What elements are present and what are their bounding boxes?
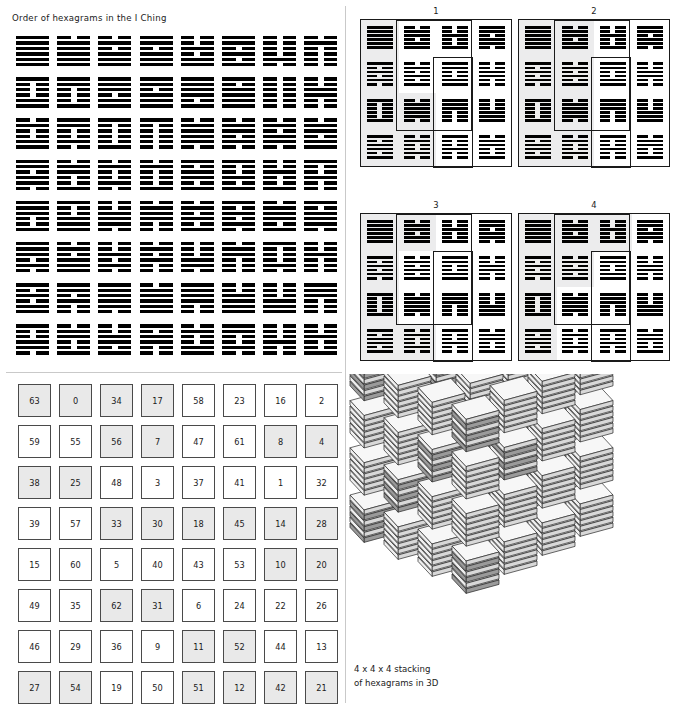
line-segment	[200, 269, 214, 272]
hexagram-number-cell[interactable]: 63	[18, 384, 51, 417]
yang-line	[479, 30, 505, 33]
hexagram-number-cell[interactable]: 13	[305, 630, 338, 663]
hexagram-number-cell[interactable]: 24	[223, 589, 256, 622]
hexagram-number-cell[interactable]: 2	[305, 384, 338, 417]
yang-line	[263, 206, 296, 209]
hexagram-number-cell[interactable]: 29	[59, 630, 92, 663]
hexagram-number-cell[interactable]: 55	[59, 425, 92, 458]
hexagram-number-cell[interactable]: 37	[182, 466, 215, 499]
line-segment	[263, 294, 277, 297]
yin-line	[98, 170, 131, 173]
line-segment	[98, 52, 131, 55]
line-segment	[263, 289, 277, 292]
line-segment	[637, 156, 663, 159]
hexagram-number-cell[interactable]: 1	[264, 466, 297, 499]
hexagram-number-cell[interactable]: 16	[264, 384, 297, 417]
hexagram-number-cell[interactable]: 20	[305, 548, 338, 581]
yin-line	[98, 135, 131, 138]
hexagram-number-cell[interactable]: 47	[182, 425, 215, 458]
hexagram-number-cell[interactable]: 21	[305, 671, 338, 704]
yang-line	[600, 293, 626, 296]
hexagram-number-cell[interactable]: 54	[59, 671, 92, 704]
hexagram-number-cell[interactable]: 19	[100, 671, 133, 704]
hexagram-number-cell[interactable]: 26	[305, 589, 338, 622]
quadrant-4: 4	[518, 200, 670, 361]
hexagram-number-cell[interactable]: 53	[223, 548, 256, 581]
hexagram-number-cell[interactable]: 62	[100, 589, 133, 622]
hexagram-number-cell[interactable]: 9	[141, 630, 174, 663]
hexagram-number-cell[interactable]: 57	[59, 507, 92, 540]
hexagram-number-cell[interactable]: 45	[223, 507, 256, 540]
hexagram-number-cell[interactable]: 30	[141, 507, 174, 540]
yin-line	[442, 30, 468, 33]
yang-line	[140, 299, 173, 302]
line-segment	[98, 135, 112, 138]
hexagram-number-cell[interactable]: 18	[182, 507, 215, 540]
line-segment	[442, 67, 468, 70]
hexagram-number-cell[interactable]: 48	[100, 466, 133, 499]
hexagram-number-cell[interactable]: 10	[264, 548, 297, 581]
yin-line	[442, 220, 468, 223]
hexagram-number-cell[interactable]: 22	[264, 589, 297, 622]
line-segment	[367, 67, 377, 70]
hexagram-number-cell[interactable]: 31	[141, 589, 174, 622]
line-segment	[36, 335, 50, 338]
yang-line	[479, 71, 505, 74]
hexagram-number-cell[interactable]: 42	[264, 671, 297, 704]
hexagram-number-cell[interactable]: 27	[18, 671, 51, 704]
hexagram-number-cell[interactable]: 6	[182, 589, 215, 622]
hexagram-number-cell[interactable]: 41	[223, 466, 256, 499]
hexagram-number-cell[interactable]: 3	[141, 466, 174, 499]
yin-line	[16, 129, 49, 132]
hexagram-number-cell[interactable]: 46	[18, 630, 51, 663]
hexagram-number-cell[interactable]: 61	[223, 425, 256, 458]
hexagram-number-cell[interactable]: 7	[141, 425, 174, 458]
hexagram-number-cell[interactable]: 49	[18, 589, 51, 622]
hexagram-number-cell[interactable]: 23	[223, 384, 256, 417]
hexagram-number-cell[interactable]: 4	[305, 425, 338, 458]
line-segment	[324, 330, 338, 333]
hexagram-number-cell[interactable]: 33	[100, 507, 133, 540]
hexagram-number-cell[interactable]: 51	[182, 671, 215, 704]
hexagram-number-cell[interactable]: 50	[141, 671, 174, 704]
line-segment	[222, 305, 255, 308]
yang-line	[57, 201, 90, 204]
hexagram-number-cell[interactable]: 11	[182, 630, 215, 663]
hexagram-number-cell[interactable]: 15	[18, 548, 51, 581]
hexagram-number-cell[interactable]: 12	[223, 671, 256, 704]
hexagram-number-cell[interactable]: 34	[100, 384, 133, 417]
yin-line	[304, 330, 337, 333]
hexagram-number-cell[interactable]: 5	[100, 548, 133, 581]
hexagram-number-cell[interactable]: 43	[182, 548, 215, 581]
order-hexagram	[94, 159, 135, 200]
hexagram-number-cell[interactable]: 58	[182, 384, 215, 417]
yang-line	[263, 217, 296, 220]
hexagram-number-cell[interactable]: 52	[223, 630, 256, 663]
yin-line	[181, 269, 214, 272]
line-segment	[367, 261, 377, 264]
hexagram-number-cell[interactable]: 60	[59, 548, 92, 581]
yang-line	[525, 236, 551, 239]
order-hexagram	[12, 76, 53, 117]
number-cell-slot: 27	[14, 667, 55, 708]
hexagram-number-cell[interactable]: 59	[18, 425, 51, 458]
line-segment	[118, 170, 132, 173]
hexagram-number-cell[interactable]: 25	[59, 466, 92, 499]
order-hexagram	[177, 282, 218, 323]
hexagram-number-cell[interactable]: 8	[264, 425, 297, 458]
hexagram-number-cell[interactable]: 28	[305, 507, 338, 540]
hexagram-number-cell[interactable]: 56	[100, 425, 133, 458]
hexagram-number-cell[interactable]: 17	[141, 384, 174, 417]
hexagram-number-cell[interactable]: 32	[305, 466, 338, 499]
line-segment	[36, 129, 50, 132]
hexagram-number-cell[interactable]: 44	[264, 630, 297, 663]
hexagram-number-cell[interactable]: 35	[59, 589, 92, 622]
line-segment	[525, 350, 551, 353]
order-hexagram	[136, 200, 177, 241]
hexagram-number-cell[interactable]: 36	[100, 630, 133, 663]
hexagram-number-cell[interactable]: 40	[141, 548, 174, 581]
hexagram-number-cell[interactable]: 14	[264, 507, 297, 540]
hexagram-number-cell[interactable]: 39	[18, 507, 51, 540]
hexagram-number-cell[interactable]: 0	[59, 384, 92, 417]
hexagram-number-cell[interactable]: 38	[18, 466, 51, 499]
